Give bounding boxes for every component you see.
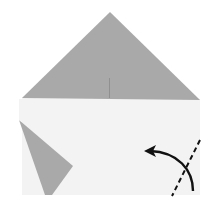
origami-diagram [0, 0, 218, 206]
top-triangle [22, 12, 200, 100]
left-edge-white [19, 99, 22, 122]
diagram-canvas [0, 0, 218, 206]
